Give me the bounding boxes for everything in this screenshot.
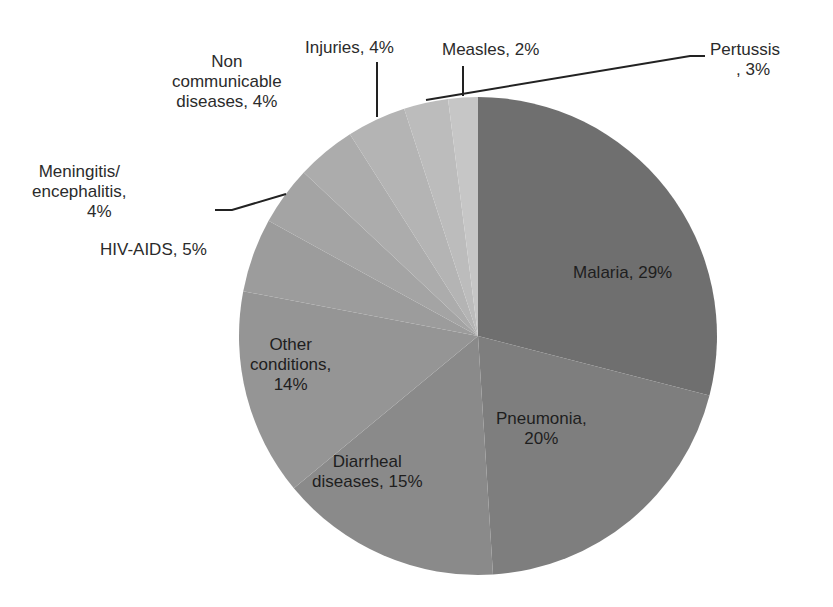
label-other-line2: conditions, bbox=[250, 355, 331, 375]
label-hiv-aids: HIV-AIDS, 5% bbox=[100, 240, 207, 260]
label-meningitis-line3: 4% bbox=[32, 202, 127, 222]
label-pertussis-line2: , 3% bbox=[710, 60, 780, 80]
pie-chart bbox=[0, 0, 833, 607]
label-pneumonia: Pneumonia, 20% bbox=[496, 409, 587, 449]
label-ncd-line3: diseases, 4% bbox=[172, 92, 282, 112]
label-pertussis-line1: Pertussis bbox=[710, 40, 780, 60]
label-meningitis-line1: Meningitis/ bbox=[32, 162, 127, 182]
label-meningitis: Meningitis/ encephalitis, 4% bbox=[32, 162, 127, 222]
label-meningitis-line2: encephalitis, bbox=[32, 182, 127, 202]
label-ncd-line2: communicable bbox=[172, 72, 282, 92]
leader-line-pertussis bbox=[426, 56, 705, 100]
label-other-line1: Other bbox=[250, 335, 331, 355]
label-pneumonia-line2: 20% bbox=[496, 429, 587, 449]
leader-line-meningitis bbox=[215, 194, 286, 210]
label-injuries: Injuries, 4% bbox=[305, 38, 394, 58]
label-diarrheal: Diarrheal diseases, 15% bbox=[312, 452, 423, 492]
label-diarrheal-line2: diseases, 15% bbox=[312, 472, 423, 492]
label-other-line3: 14% bbox=[250, 375, 331, 395]
label-pneumonia-line1: Pneumonia, bbox=[496, 409, 587, 429]
label-non-communicable: Non communicable diseases, 4% bbox=[172, 52, 282, 112]
label-malaria: Malaria, 29% bbox=[573, 263, 672, 283]
label-measles: Measles, 2% bbox=[442, 40, 539, 60]
label-other-conditions: Other conditions, 14% bbox=[250, 335, 331, 395]
label-ncd-line1: Non bbox=[172, 52, 282, 72]
label-pertussis: Pertussis , 3% bbox=[710, 40, 780, 80]
label-diarrheal-line1: Diarrheal bbox=[312, 452, 423, 472]
